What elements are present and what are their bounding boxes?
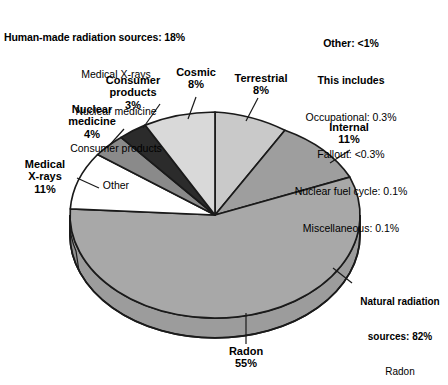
other-item-2: Nuclear fuel cycle: 0.1% <box>256 185 446 197</box>
natural-item-0: Radon <box>352 366 448 378</box>
callout-internal: Internal 11% <box>316 121 382 146</box>
callout-internal-name: Internal <box>316 121 382 133</box>
human-made-item-2: Consumer products <box>4 142 228 154</box>
natural-title-line1: Natural radiation <box>352 296 448 308</box>
callout-medical-name-2: X-rays <box>14 170 76 182</box>
callout-consumer-name-2: products <box>96 86 170 98</box>
callout-terrestrial-name: Terrestrial <box>222 72 300 84</box>
other-title: Other: <1% <box>256 37 446 49</box>
callout-consumer-name-1: Consumer <box>96 74 170 86</box>
human-made-title: Human-made radiation sources: 18% <box>4 31 228 43</box>
callout-terrestrial-value: 8% <box>222 84 300 96</box>
callout-consumer-products: Consumer products 3% <box>96 74 170 111</box>
callout-internal-value: 11% <box>316 133 382 145</box>
callout-medical-name-1: Medical <box>14 158 76 170</box>
callout-radon-name: Radon <box>212 345 280 357</box>
other-item-1: Fallout: <0.3% <box>256 148 446 160</box>
callout-consumer-value: 3% <box>96 99 170 111</box>
pie-chart-figure: Human-made radiation sources: 18% Medica… <box>0 0 448 385</box>
natural-title-line2: sources: 82% <box>352 331 448 343</box>
callout-medical-value: 11% <box>14 183 76 195</box>
callout-nuclear-name-2: medicine <box>58 115 126 127</box>
callout-terrestrial: Terrestrial 8% <box>222 72 300 97</box>
natural-sources-block: Natural radiation sources: 82% Radon Int… <box>352 272 448 385</box>
callout-nuclear-value: 4% <box>58 128 126 140</box>
callout-radon-value: 55% <box>212 357 280 369</box>
other-item-3: Miscellaneous: 0.1% <box>256 222 446 234</box>
callout-medical-xrays: Medical X-rays 11% <box>14 158 76 195</box>
callout-radon: Radon 55% <box>212 345 280 370</box>
